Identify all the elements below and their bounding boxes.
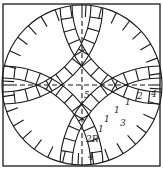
piece-label-5: 5 [84, 90, 90, 100]
arc-segment-line [64, 138, 76, 141]
band-segment-line [143, 114, 154, 119]
piece-label-4-right: 4 [150, 89, 157, 99]
arc-segment-line [68, 126, 79, 131]
band-segment-line [105, 149, 109, 160]
arc-segment-line [136, 69, 139, 81]
band-segment-line [48, 146, 53, 157]
band-segment-line [34, 140, 41, 150]
band-segment-line [23, 131, 32, 139]
arc-segment-line [123, 73, 127, 84]
arc-segment-line [90, 17, 102, 19]
arc-segment-line [25, 69, 28, 81]
band-segment-line [146, 58, 157, 62]
arc-segment-line [84, 39, 95, 44]
arc-segment-line [91, 67, 99, 76]
arc-segment-line [148, 67, 149, 79]
arc-ring-3-0 [60, 66, 163, 170]
arc-segment-line [56, 74, 63, 84]
arc-segment-line [64, 29, 76, 32]
arc-segment-line [56, 86, 63, 96]
band-segment-line [123, 21, 130, 31]
band-segment-line [78, 153, 79, 165]
arc-segment-line [91, 94, 99, 103]
band-segment-line [132, 31, 141, 39]
piece-label-1a: 1 [125, 97, 131, 107]
band-segment-line [62, 151, 65, 163]
band-segment-line [3, 95, 15, 97]
band-segment-line [140, 44, 150, 50]
piece-label-1d: 1 [98, 124, 104, 134]
band-segment-line [85, 5, 86, 17]
quilt-block-diagram: 542111132R4 [0, 0, 163, 170]
arc-segment-line [84, 126, 95, 131]
arc-segment-line [88, 28, 100, 31]
band-segment-line [13, 120, 23, 126]
band-segment-line [99, 7, 102, 19]
band-segment-line [2, 81, 14, 82]
arc-segment-line [36, 73, 40, 84]
quilt-block-svg: 542111132R4 [0, 0, 163, 170]
arc-segment-line [68, 39, 79, 44]
piece-label-4-bottom: 4 [87, 152, 94, 162]
band-segment-line [128, 135, 136, 144]
band-segment-line [117, 143, 123, 153]
piece-label-2R: 2R [85, 134, 99, 144]
piece-label-2: 2 [136, 91, 143, 101]
piece-label-3: 3 [120, 118, 126, 128]
band-segment-line [28, 26, 36, 35]
arc-segment-line [14, 91, 15, 103]
arc-segment-line [25, 89, 28, 101]
arc-segment-line [123, 86, 127, 97]
band-segment-line [111, 13, 116, 24]
arc-segment-line [36, 86, 40, 97]
piece-label-1b: 1 [114, 105, 120, 115]
band-segment-line [10, 51, 21, 56]
arc-ring-1-0 [60, 0, 163, 104]
arc-segment-line [61, 18, 73, 20]
piece-label-1c: 1 [104, 114, 110, 124]
band-segment-line [137, 126, 147, 133]
arc-ring-0-0 [0, 0, 103, 104]
arc-segment-line [64, 67, 72, 76]
arc-segment-line [64, 94, 72, 103]
arc-segment-line [61, 151, 73, 153]
band-segment-line [18, 37, 28, 44]
band-segment-line [55, 10, 59, 21]
band-segment-line [7, 108, 18, 112]
band-segment-line [41, 16, 47, 26]
